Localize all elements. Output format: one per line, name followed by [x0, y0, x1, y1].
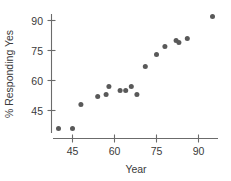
y-tick-label-60: 60: [31, 75, 43, 87]
x-tick-label-75: 75: [151, 145, 163, 157]
data-points-group: [56, 14, 215, 131]
data-point: [56, 126, 61, 131]
data-point: [78, 102, 83, 107]
data-point: [104, 92, 109, 97]
data-point: [70, 126, 75, 131]
data-point: [176, 40, 181, 45]
data-point: [185, 36, 190, 41]
data-point: [106, 84, 111, 89]
data-point: [134, 92, 139, 97]
y-tick-label-75: 75: [31, 45, 43, 57]
data-point: [118, 88, 123, 93]
data-point: [95, 94, 100, 99]
x-tick-label-60: 60: [109, 145, 121, 157]
y-tick-label-45: 45: [31, 105, 43, 117]
x-tick-label-45: 45: [67, 145, 79, 157]
data-point: [123, 88, 128, 93]
x-axis-title: Year: [125, 163, 147, 175]
data-point: [162, 44, 167, 49]
data-point: [143, 64, 148, 69]
plot-area: 90 75 60 45 45 60 75 90 Year % Respondin…: [0, 0, 231, 181]
x-tick-label-90: 90: [193, 145, 205, 157]
data-point: [129, 84, 134, 89]
data-point: [154, 52, 159, 57]
data-point: [210, 14, 215, 19]
y-axis-title: % Responding Yes: [3, 30, 15, 118]
scatter-chart: 90 75 60 45 45 60 75 90 Year % Respondin…: [0, 0, 231, 181]
y-tick-label-90: 90: [31, 15, 43, 27]
